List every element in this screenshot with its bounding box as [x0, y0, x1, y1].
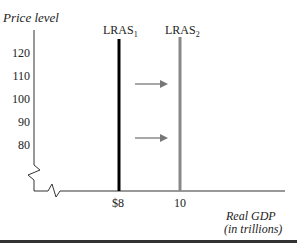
shift-arrow-lower — [135, 134, 168, 142]
x-axis-sublabel: (in trillions) — [224, 222, 282, 236]
x-tick-8: $8 — [112, 196, 124, 210]
x-axis — [34, 184, 285, 197]
shift-arrow-upper — [135, 80, 168, 88]
y-tick-90: 90 — [18, 115, 30, 129]
y-axis-label: Price level — [2, 10, 59, 25]
x-tick-10: 10 — [174, 196, 186, 210]
y-tick-100: 100 — [12, 92, 30, 106]
y-tick-110: 110 — [12, 69, 30, 83]
lras-shift-chart: Price level 120 110 100 90 80 LRAS1 LRAS… — [0, 0, 297, 243]
y-tick-80: 80 — [18, 138, 30, 152]
y-tick-120: 120 — [12, 46, 30, 60]
lras2-label: LRAS2 — [165, 23, 200, 39]
x-axis-label: Real GDP — [225, 209, 276, 223]
lras1-label: LRAS1 — [103, 23, 138, 39]
